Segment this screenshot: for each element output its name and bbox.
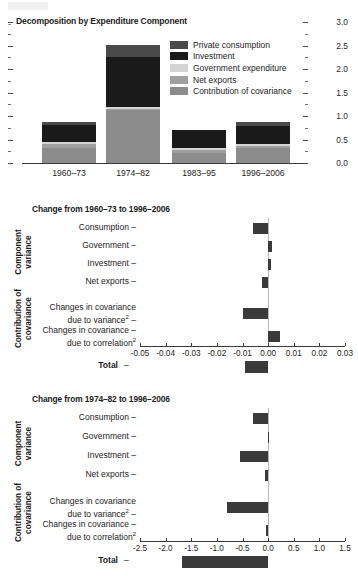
category-label: Consumption – bbox=[79, 412, 136, 423]
x-tick bbox=[268, 343, 269, 346]
x-tick bbox=[191, 343, 192, 346]
legend-item: Net exports bbox=[170, 74, 292, 86]
legend-swatch bbox=[170, 52, 188, 60]
panel1-x-axis bbox=[22, 163, 304, 164]
bar-segment bbox=[42, 142, 96, 144]
x-tick bbox=[217, 538, 218, 541]
group-label-contribution-covariance: Contribution ofcovariance bbox=[14, 473, 33, 552]
label-line-2: due to variance2 – bbox=[67, 509, 136, 519]
group-line-1: Component bbox=[14, 421, 23, 466]
h-bar bbox=[262, 277, 268, 288]
stacked-bar bbox=[106, 45, 160, 163]
y-tick-minor bbox=[305, 81, 308, 82]
legend-label: Investment bbox=[193, 51, 235, 61]
x-tick-label: 0.03 bbox=[329, 349, 358, 358]
x-tick bbox=[294, 343, 295, 346]
category-label: Investment – bbox=[87, 450, 136, 461]
y-tick-minor bbox=[305, 128, 308, 129]
legend-swatch bbox=[170, 87, 188, 95]
y-tick-label: 1.0 bbox=[336, 111, 348, 121]
x-tick bbox=[140, 343, 141, 346]
category-label: Changes in covariancedue to variance2 – bbox=[50, 302, 136, 326]
h-bar bbox=[240, 451, 268, 462]
bar-segment bbox=[42, 125, 96, 142]
category-label: Consumption – bbox=[79, 222, 136, 233]
y-tick-label: 2.5 bbox=[336, 41, 348, 51]
h-bar bbox=[268, 259, 271, 270]
y-tick-minor-left bbox=[8, 34, 11, 35]
h-bar bbox=[243, 308, 269, 319]
legend-label: Government expenditure bbox=[193, 63, 287, 73]
label-line-1: Changes in covariance bbox=[50, 496, 136, 506]
legend-item: Government expenditure bbox=[170, 62, 292, 74]
bar-segment bbox=[42, 148, 96, 164]
stacked-bar bbox=[42, 122, 96, 163]
h-bar bbox=[253, 223, 268, 234]
x-tick bbox=[319, 538, 320, 541]
legend-item: Contribution of covariance bbox=[170, 85, 292, 97]
x-tick bbox=[217, 343, 218, 346]
bar-segment bbox=[106, 57, 160, 106]
panel2-plot-area bbox=[140, 218, 345, 334]
legend-label: Private consumption bbox=[193, 40, 270, 50]
category-label: Government – bbox=[82, 431, 136, 442]
chart-panel-decomposition: - Decomposition by Expenditure Component… bbox=[0, 0, 353, 190]
group-line-2: covariance bbox=[24, 297, 33, 340]
x-tick bbox=[319, 343, 320, 346]
category-label: Changes in covariancedue to variance2 – bbox=[50, 496, 136, 520]
y-tick-left bbox=[8, 116, 13, 117]
x-tick bbox=[268, 538, 269, 541]
y-tick-left bbox=[8, 46, 13, 47]
group-line-1: Contribution of bbox=[14, 289, 23, 348]
category-label: Net exports – bbox=[85, 276, 136, 287]
bar-segment bbox=[106, 45, 160, 58]
y-tick-label: 1.5 bbox=[336, 88, 348, 98]
panel2-title: Change from 1960–73 to 1996–2006 bbox=[32, 204, 170, 214]
y-tick-label: 3.0 bbox=[336, 17, 348, 27]
x-tick bbox=[243, 343, 244, 346]
h-bar bbox=[265, 470, 268, 481]
bar-segment bbox=[236, 144, 290, 146]
bar-segment bbox=[172, 153, 226, 163]
group-label-contribution-covariance: Contribution ofcovariance bbox=[14, 279, 33, 358]
h-bar bbox=[253, 413, 268, 424]
category-label-total: Total bbox=[98, 555, 118, 566]
y-tick-left bbox=[8, 140, 13, 141]
group-line-1: Component bbox=[14, 229, 23, 274]
stacked-bar bbox=[236, 122, 290, 163]
group-line-2: variance bbox=[24, 427, 33, 460]
y-tick-minor-left bbox=[8, 57, 11, 58]
total-tick-dash: – bbox=[124, 360, 129, 370]
bar-segment bbox=[236, 126, 290, 143]
label-line-2: due to correlation2 bbox=[67, 338, 136, 348]
panel3-plot-area bbox=[140, 408, 345, 530]
x-tick-label: 1983–95 bbox=[164, 168, 234, 178]
y-tick bbox=[303, 93, 308, 94]
y-tick-label: 0.0 bbox=[336, 158, 348, 168]
y-tick bbox=[303, 163, 308, 164]
x-tick bbox=[294, 538, 295, 541]
legend-label: Contribution of covariance bbox=[193, 86, 292, 96]
group-line-2: variance bbox=[24, 235, 33, 268]
legend-swatch bbox=[170, 41, 188, 49]
h-bar bbox=[182, 556, 268, 568]
label-line-2: due to correlation2 bbox=[67, 532, 136, 542]
y-tick-left bbox=[8, 93, 13, 94]
group-line-2: covariance bbox=[24, 491, 33, 534]
panel2-zero-line bbox=[268, 218, 269, 346]
h-bar bbox=[227, 502, 268, 513]
x-tick bbox=[166, 538, 167, 541]
bar-segment bbox=[172, 130, 226, 148]
y-tick-minor bbox=[305, 34, 308, 35]
h-bar bbox=[266, 525, 269, 536]
panel3-zero-line bbox=[268, 408, 269, 540]
x-tick bbox=[166, 343, 167, 346]
panel3-title: Change from 1974–82 to 1996–2006 bbox=[32, 394, 170, 404]
y-tick-label: 2.0 bbox=[336, 64, 348, 74]
y-tick-minor bbox=[305, 57, 308, 58]
y-tick-minor bbox=[305, 104, 308, 105]
category-label: Investment – bbox=[87, 258, 136, 269]
bar-segment bbox=[172, 148, 226, 149]
legend-item: Investment bbox=[170, 51, 292, 63]
legend-swatch bbox=[170, 76, 188, 84]
